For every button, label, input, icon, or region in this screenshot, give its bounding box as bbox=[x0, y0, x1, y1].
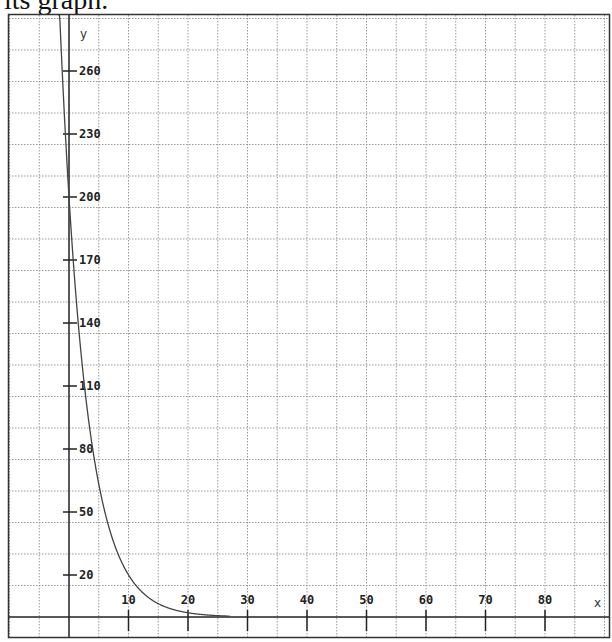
x-tick-label: 50 bbox=[359, 593, 373, 607]
x-tick-label: 20 bbox=[181, 593, 195, 607]
exponential-decay-plot: xy 1020304050607080205080110140170200230… bbox=[0, 0, 612, 642]
y-tick-label: 260 bbox=[79, 64, 101, 78]
y-tick-label: 80 bbox=[79, 442, 93, 456]
x-tick-label: 40 bbox=[300, 593, 314, 607]
y-tick-label: 50 bbox=[79, 505, 93, 519]
tick-marks: 1020304050607080205080110140170200230260 bbox=[63, 64, 552, 631]
x-axis-label: x bbox=[594, 596, 601, 610]
y-tick-label: 140 bbox=[79, 316, 101, 330]
y-tick-label: 230 bbox=[79, 127, 101, 141]
y-tick-label: 110 bbox=[79, 379, 101, 393]
x-tick-label: 70 bbox=[478, 593, 492, 607]
y-tick-label: 200 bbox=[79, 190, 101, 204]
y-axis-label: y bbox=[80, 27, 87, 41]
y-tick-label: 170 bbox=[79, 253, 101, 267]
x-tick-label: 10 bbox=[121, 593, 135, 607]
x-tick-label: 30 bbox=[240, 593, 254, 607]
x-tick-label: 60 bbox=[419, 593, 433, 607]
x-tick-label: 80 bbox=[538, 593, 552, 607]
y-tick-label: 20 bbox=[79, 568, 93, 582]
